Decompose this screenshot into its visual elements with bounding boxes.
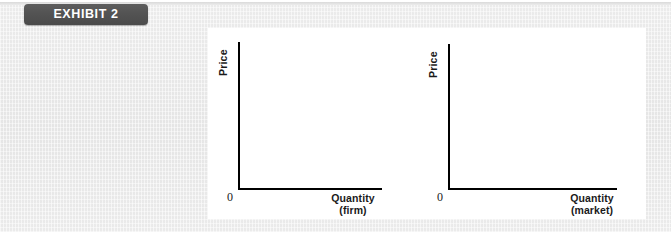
origin-label-market: 0 <box>437 191 443 203</box>
y-axis-label-firm: Price <box>218 49 229 76</box>
exhibit-badge: EXHIBIT 2 <box>24 4 148 25</box>
x-axis-label-market: Quantity (market) <box>544 192 640 216</box>
x-axis-label-firm-line2: (firm) <box>308 204 398 216</box>
exhibit-badge-label: EXHIBIT 2 <box>53 8 118 21</box>
chart-market: Price 0 Quantity (market) <box>426 28 646 219</box>
x-axis-label-market-line1: Quantity <box>544 192 640 204</box>
x-axis-label-firm: Quantity (firm) <box>308 192 398 216</box>
x-axis-line-market <box>448 188 617 190</box>
x-axis-label-firm-line1: Quantity <box>308 192 398 204</box>
y-axis-label-market: Price <box>428 51 439 78</box>
chart-firm: Price 0 Quantity (firm) <box>212 28 412 219</box>
figure-panel: Price 0 Quantity (firm) Price 0 Quantity… <box>208 28 646 219</box>
origin-label-firm: 0 <box>227 191 233 203</box>
x-axis-label-market-line2: (market) <box>544 204 640 216</box>
y-axis-line-firm <box>238 42 240 190</box>
y-axis-line-market <box>448 44 450 190</box>
x-axis-line-firm <box>238 188 382 190</box>
